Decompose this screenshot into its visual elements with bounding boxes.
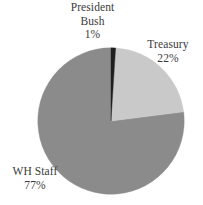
label-wh-staff-value: 77%: [6, 179, 64, 193]
label-president-bush-line2: Bush: [0, 15, 203, 29]
slice-label-president-bush: President Bush 1%: [0, 1, 203, 42]
label-president-bush-line1: President: [0, 1, 203, 15]
pie-chart-figure: President Bush 1% Treasury 22% WH Staff …: [0, 0, 203, 205]
slice-label-treasury: Treasury 22%: [138, 38, 198, 65]
label-treasury-value: 22%: [138, 52, 198, 66]
label-treasury-line1: Treasury: [138, 38, 198, 52]
label-wh-staff-line1: WH Staff: [6, 165, 64, 179]
slice-label-wh-staff: WH Staff 77%: [6, 165, 64, 192]
